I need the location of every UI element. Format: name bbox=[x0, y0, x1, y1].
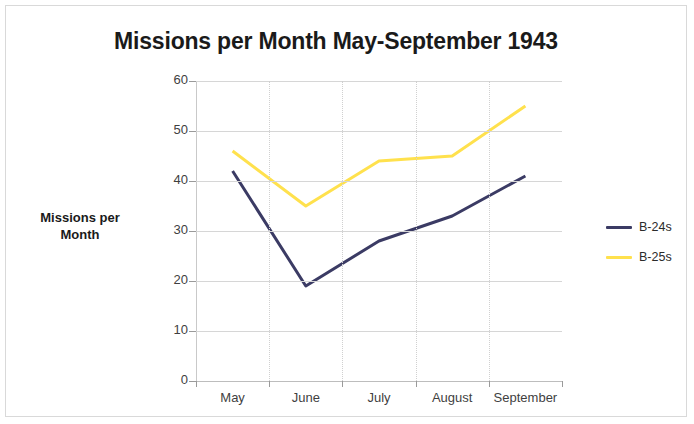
gridline bbox=[196, 81, 562, 82]
y-axis-tick-mark bbox=[189, 331, 196, 332]
y-axis-tick-mark bbox=[189, 81, 196, 82]
legend-label: B-24s bbox=[639, 220, 672, 234]
x-axis-tick-mark bbox=[489, 381, 490, 387]
x-axis-tick-label: August bbox=[432, 390, 472, 405]
x-axis-tick-mark bbox=[562, 381, 563, 387]
gridline bbox=[196, 181, 562, 182]
y-axis-title: Missions per Month bbox=[28, 209, 132, 243]
series-line-b-24s bbox=[233, 171, 526, 286]
chart-title: Missions per Month May-September 1943 bbox=[6, 28, 666, 55]
y-axis-tick-label: 60 bbox=[148, 72, 188, 87]
y-axis-tick-label: 10 bbox=[148, 322, 188, 337]
gridline bbox=[196, 131, 562, 132]
y-axis-tick-mark bbox=[189, 231, 196, 232]
vertical-gridline bbox=[489, 81, 490, 381]
x-axis-tick-mark bbox=[342, 381, 343, 387]
y-axis-tick-label: 20 bbox=[148, 272, 188, 287]
x-axis-tick-label: July bbox=[367, 390, 390, 405]
x-axis-tick-label: September bbox=[494, 390, 558, 405]
x-axis-tick-mark bbox=[196, 381, 197, 387]
y-axis-tick-label: 40 bbox=[148, 172, 188, 187]
series-line-b-25s bbox=[233, 106, 526, 206]
y-axis-tick-mark bbox=[189, 281, 196, 282]
chart-legend: B-24sB-25s bbox=[606, 212, 686, 272]
y-axis-tick-label: 50 bbox=[148, 122, 188, 137]
chart-frame: Missions per Month May-September 1943 Mi… bbox=[5, 5, 687, 417]
vertical-gridline bbox=[342, 81, 343, 381]
legend-item-b-25s[interactable]: B-25s bbox=[606, 242, 686, 272]
gridline bbox=[196, 331, 562, 332]
y-axis-tick-labels: 0102030405060 bbox=[144, 81, 188, 381]
vertical-gridline bbox=[416, 81, 417, 381]
plot-area bbox=[196, 81, 562, 381]
x-axis-tick-label: May bbox=[220, 390, 245, 405]
legend-label: B-25s bbox=[639, 250, 672, 264]
y-axis-tick-mark bbox=[189, 131, 196, 132]
y-axis-title-text: Missions per Month bbox=[40, 210, 119, 242]
vertical-gridline bbox=[269, 81, 270, 381]
gridline bbox=[196, 231, 562, 232]
x-axis-tick-label: June bbox=[292, 390, 320, 405]
legend-swatch-icon bbox=[606, 226, 632, 229]
legend-item-b-24s[interactable]: B-24s bbox=[606, 212, 686, 242]
gridline bbox=[196, 381, 562, 382]
x-axis-tick-mark bbox=[269, 381, 270, 387]
gridline bbox=[196, 281, 562, 282]
y-axis-tick-mark bbox=[189, 181, 196, 182]
y-axis-tick-mark bbox=[189, 381, 196, 382]
y-axis-tick-label: 30 bbox=[148, 222, 188, 237]
x-axis-tick-mark bbox=[416, 381, 417, 387]
legend-swatch-icon bbox=[606, 256, 632, 259]
y-axis-tick-label: 0 bbox=[148, 372, 188, 387]
